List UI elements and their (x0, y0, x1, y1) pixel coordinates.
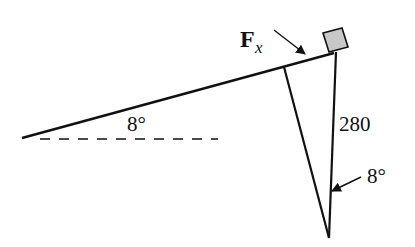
lever-diagram: F x 8° 280 8° (0, 0, 415, 247)
support-leg-left (284, 67, 329, 238)
tilt-angle-label: 8° (367, 164, 386, 188)
force-arrow (274, 30, 305, 54)
inclined-beam (22, 53, 334, 138)
load-box (323, 28, 348, 52)
length-label: 280 (339, 112, 371, 136)
diagram-canvas: F x 8° 280 8° (0, 0, 415, 247)
force-subscript-label: x (254, 38, 263, 57)
incline-angle-label: 8° (127, 112, 146, 136)
force-label: F (240, 26, 255, 52)
angle-pointer-arrow (332, 177, 361, 191)
support-leg-right (329, 52, 336, 238)
